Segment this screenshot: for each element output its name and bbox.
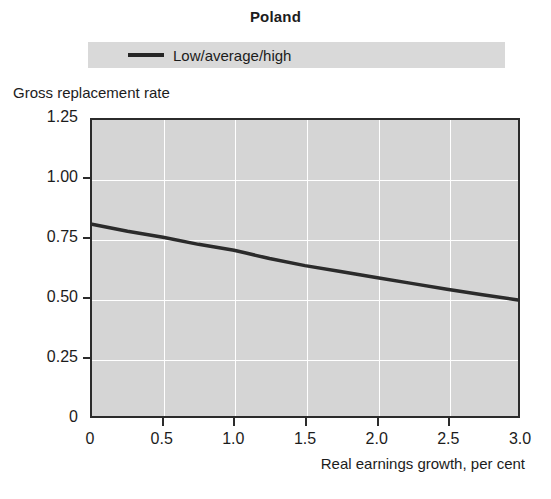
x-tick-mark	[233, 418, 235, 426]
x-tick-label: 1.0	[203, 430, 263, 448]
y-tick-label: 1.25	[8, 108, 78, 126]
plot-area	[90, 118, 520, 418]
y-tick-label: 0	[8, 408, 78, 426]
chart-legend: Low/average/high	[88, 42, 505, 68]
x-tick-label: 3.0	[490, 430, 550, 448]
x-tick-label: 2.5	[418, 430, 478, 448]
y-tick-label: 1.00	[8, 168, 78, 186]
x-tick-label: 0.5	[132, 430, 192, 448]
series-line-low-average-high	[92, 224, 518, 300]
legend-line-icon	[128, 53, 164, 57]
legend-entry-label: Low/average/high	[173, 48, 291, 63]
x-tick-label: 2.0	[347, 430, 407, 448]
x-tick-mark	[162, 418, 164, 426]
x-tick-label: 0	[60, 430, 120, 448]
x-axis-title: Real earnings growth, per cent	[321, 455, 525, 472]
page-title: Poland	[0, 8, 551, 25]
series-chart-svg	[92, 120, 518, 416]
y-tick-label: 0.25	[8, 348, 78, 366]
legend-entry: Low/average/high	[128, 42, 291, 68]
x-tick-label: 1.5	[275, 430, 335, 448]
y-tick-label: 0.75	[8, 228, 78, 246]
y-axis-title: Gross replacement rate	[13, 84, 170, 101]
plot-inner	[92, 120, 518, 416]
x-tick-mark	[305, 418, 307, 426]
x-tick-mark	[377, 418, 379, 426]
x-tick-mark	[448, 418, 450, 426]
y-tick-label: 0.50	[8, 288, 78, 306]
